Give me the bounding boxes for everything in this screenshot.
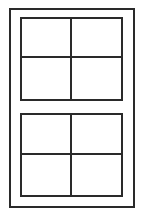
lower-sash-horizontal-muntin (20, 153, 123, 155)
upper-sash-vertical-muntin (70, 17, 72, 101)
upper-sash-horizontal-muntin (20, 56, 123, 58)
lower-sash-vertical-muntin (70, 113, 72, 197)
